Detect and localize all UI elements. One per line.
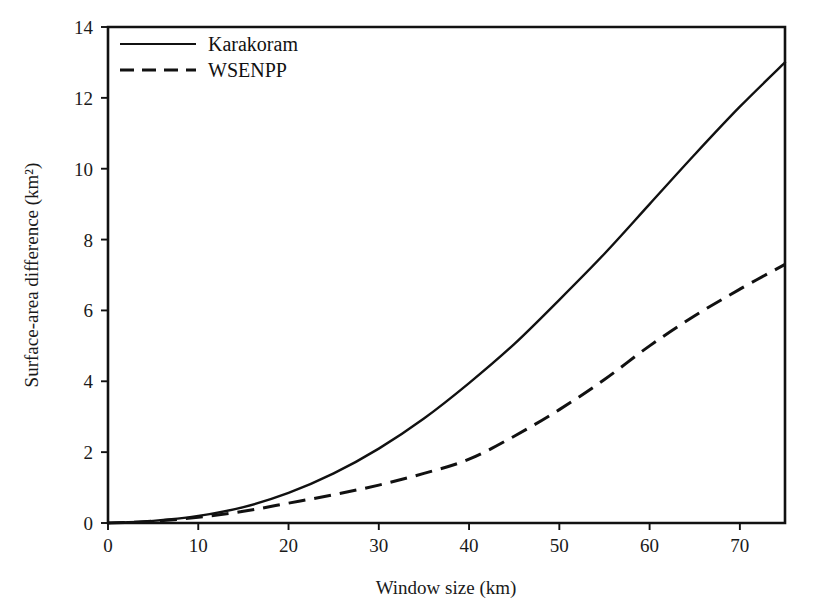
y-tick-label: 2 [84, 442, 94, 463]
x-tick-label: 40 [460, 535, 479, 556]
x-tick-label: 0 [103, 535, 113, 556]
x-axis-title: Window size (km) [376, 577, 517, 599]
figure-background [0, 0, 824, 610]
y-tick-label: 10 [74, 159, 93, 180]
legend-label-karakoram: Karakoram [208, 33, 298, 55]
x-tick-label: 10 [189, 535, 208, 556]
x-tick-label: 60 [640, 535, 659, 556]
x-tick-label: 70 [730, 535, 749, 556]
y-tick-label: 0 [84, 513, 94, 534]
chart-page: 010203040506070 02468101214 Karakoram WS… [0, 0, 824, 610]
chart-figure: 010203040506070 02468101214 Karakoram WS… [0, 0, 824, 610]
y-axis-title: Surface-area difference (km²) [21, 163, 43, 388]
y-tick-label: 14 [74, 17, 94, 38]
y-tick-label: 8 [84, 230, 94, 251]
x-tick-label: 30 [369, 535, 388, 556]
y-tick-label: 6 [84, 300, 94, 321]
x-tick-label: 20 [279, 535, 298, 556]
legend-label-wsenpp: WSENPP [208, 59, 287, 81]
x-tick-label: 50 [550, 535, 569, 556]
y-tick-label: 12 [74, 88, 93, 109]
y-tick-label: 4 [84, 371, 94, 392]
